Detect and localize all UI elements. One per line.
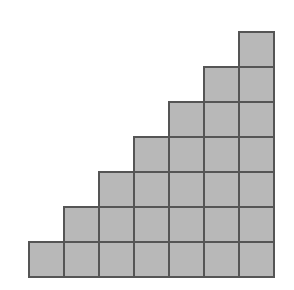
grid-square <box>239 207 274 242</box>
staircase-diagram <box>0 0 294 290</box>
grid-square <box>169 172 204 207</box>
grid-square <box>204 242 239 277</box>
grid-square <box>239 32 274 67</box>
grid-square <box>204 172 239 207</box>
grid-square <box>99 172 134 207</box>
grid-square <box>169 242 204 277</box>
grid-square <box>169 102 204 137</box>
grid-square <box>204 67 239 102</box>
grid-square <box>134 137 169 172</box>
grid-square <box>29 242 64 277</box>
grid-square <box>134 172 169 207</box>
grid-square <box>239 102 274 137</box>
grid-square <box>99 207 134 242</box>
grid-square <box>239 172 274 207</box>
grid-square <box>204 102 239 137</box>
grid-square <box>204 137 239 172</box>
grid-square <box>169 137 204 172</box>
grid-square <box>64 242 99 277</box>
grid-square <box>239 137 274 172</box>
grid-square <box>64 207 99 242</box>
grid-square <box>134 207 169 242</box>
grid-square <box>239 67 274 102</box>
grid-square <box>204 207 239 242</box>
grid-square <box>169 207 204 242</box>
grid-square <box>239 242 274 277</box>
grid-square <box>99 242 134 277</box>
grid-square <box>134 242 169 277</box>
